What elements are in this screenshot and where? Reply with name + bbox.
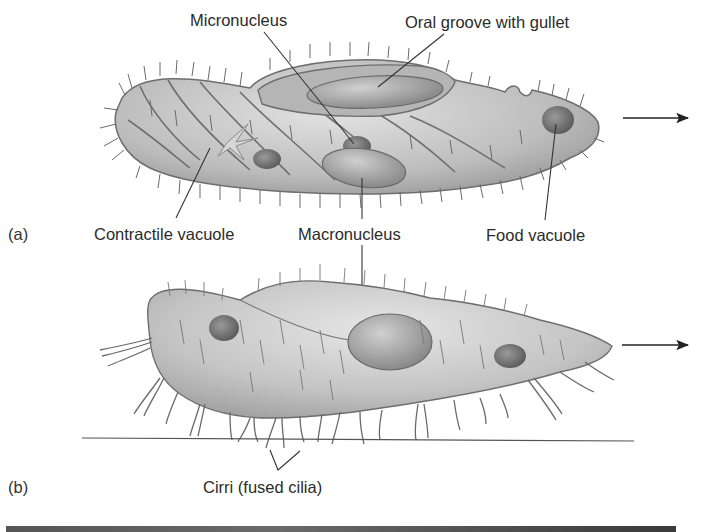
label-food-vacuole: Food vacuole bbox=[486, 226, 585, 244]
label-macronucleus: Macronucleus bbox=[298, 225, 401, 243]
label-oral-groove: Oral groove with gullet bbox=[405, 13, 569, 31]
label-cirri: Cirri (fused cilia) bbox=[203, 478, 322, 496]
label-micronucleus: Micronucleus bbox=[190, 11, 287, 29]
organism-a bbox=[100, 42, 604, 208]
label-contractile-vacuole: Contractile vacuole bbox=[94, 225, 234, 243]
bottom-divider-bar bbox=[6, 526, 676, 532]
food-vacuole-left bbox=[253, 149, 281, 169]
diagram-illustration bbox=[0, 0, 703, 532]
nucleus-left-b bbox=[209, 315, 239, 341]
macronucleus-b bbox=[348, 314, 432, 370]
leader-lines-cirri bbox=[270, 450, 300, 470]
substrate-line bbox=[82, 438, 634, 441]
nucleus-right-b bbox=[494, 344, 526, 368]
food-vacuole-right bbox=[542, 106, 574, 134]
panel-tag-a: (a) bbox=[8, 225, 28, 244]
organism-b bbox=[100, 264, 614, 448]
panel-tag-b: (b) bbox=[8, 478, 28, 497]
